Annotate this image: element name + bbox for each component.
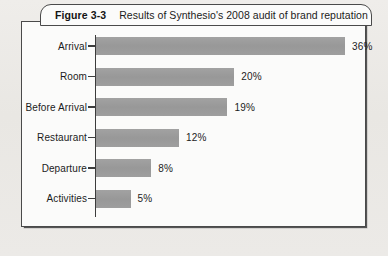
bar-value-label: 36% (352, 41, 373, 52)
figure-caption: Results of Synthesio's 2008 audit of bra… (119, 9, 368, 21)
bar (96, 129, 179, 147)
bar-value-label: 20% (241, 71, 262, 82)
axis-tick (88, 198, 96, 199)
bar-row: Before Arrival19% (21, 98, 366, 116)
bar-rows: Arrival36%Room20%Before Arrival19%Restau… (21, 35, 366, 217)
bar (96, 190, 131, 208)
figure-title-tab: Figure 3-3 Results of Synthesio's 2008 a… (40, 4, 372, 26)
axis-tick (88, 45, 96, 46)
bar-row: Departure8% (21, 159, 366, 177)
bar-category-label: Room (0, 71, 87, 82)
bar-row: Activities5% (21, 190, 366, 208)
bar (96, 98, 227, 116)
figure-container: Figure 3-3 Results of Synthesio's 2008 a… (0, 0, 388, 256)
bar-row: Room20% (21, 68, 366, 86)
axis-tick (88, 76, 96, 77)
axis-tick (88, 106, 96, 107)
bar-category-label: Restaurant (0, 132, 87, 143)
bar (96, 68, 234, 86)
axis-tick (88, 167, 96, 168)
bar-row: Restaurant12% (21, 129, 366, 147)
bar-chart: Arrival36%Room20%Before Arrival19%Restau… (21, 21, 366, 227)
bar-value-label: 12% (186, 132, 207, 143)
axis-tick (88, 137, 96, 138)
bar-value-label: 19% (234, 102, 255, 113)
figure-number: Figure 3-3 (55, 9, 106, 21)
bar-category-label: Departure (0, 163, 87, 174)
bar (96, 159, 151, 177)
bar-row: Arrival36% (21, 37, 366, 55)
bar-value-label: 5% (138, 193, 153, 204)
bar-category-label: Arrival (0, 41, 87, 52)
bar-category-label: Before Arrival (0, 102, 87, 113)
bar (96, 37, 345, 55)
bar-value-label: 8% (158, 163, 173, 174)
bar-category-label: Activities (0, 193, 87, 204)
